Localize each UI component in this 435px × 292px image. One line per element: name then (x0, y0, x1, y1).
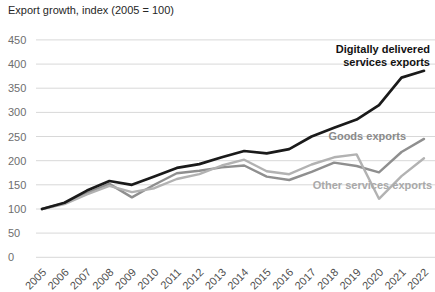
x-tick-label-2016: 2016 (270, 266, 296, 292)
x-tick-label-2020: 2020 (360, 266, 386, 292)
y-tick-label-300: 300 (8, 106, 26, 118)
y-tick-label-100: 100 (8, 203, 26, 215)
y-tick-label-150: 150 (8, 179, 26, 191)
x-tick-label-2011: 2011 (158, 266, 183, 291)
y-tick-label-0: 0 (8, 251, 14, 263)
series-label-goods-exports: Goods exports (298, 130, 406, 143)
x-tick-label-2022: 2022 (405, 266, 431, 292)
x-tick-label-2009: 2009 (113, 266, 139, 292)
x-tick-label-2018: 2018 (315, 266, 341, 292)
y-tick-label-450: 450 (8, 34, 26, 46)
x-tick-label-2015: 2015 (247, 266, 273, 292)
y-tick-label-350: 350 (8, 82, 26, 94)
x-tick-label-2019: 2019 (337, 266, 363, 292)
x-tick-label-2007: 2007 (68, 266, 94, 292)
series-label-digitally-delivered-services: Digitally delivered services exports (318, 43, 430, 69)
x-tick-label-2013: 2013 (202, 266, 228, 292)
y-tick-label-200: 200 (8, 155, 26, 167)
x-tick-label-2017: 2017 (292, 266, 318, 292)
export-growth-chart: Export growth, index (2005 = 100) 050100… (0, 0, 435, 292)
y-tick-label-400: 400 (8, 58, 26, 70)
x-tick-label-2008: 2008 (90, 266, 116, 292)
y-tick-label-50: 50 (8, 227, 20, 239)
x-tick-label-2014: 2014 (225, 266, 251, 292)
x-tick-label-2021: 2021 (382, 266, 408, 292)
series-label-other-services-exports: Other services exports (276, 179, 432, 192)
x-tick-label-2010: 2010 (135, 266, 161, 292)
y-tick-label-250: 250 (8, 131, 26, 143)
x-tick-label-2006: 2006 (45, 266, 71, 292)
x-tick-label-2005: 2005 (23, 266, 49, 292)
x-tick-label-2012: 2012 (180, 266, 206, 292)
